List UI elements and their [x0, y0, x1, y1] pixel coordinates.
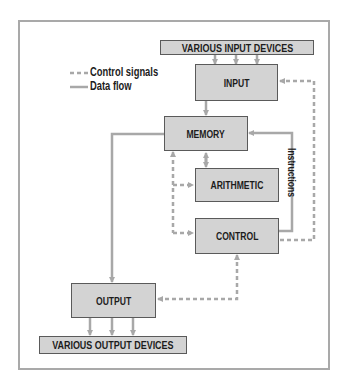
connector-lines: [0, 0, 351, 390]
input-label: INPUT: [224, 77, 250, 89]
control-label: CONTROL: [216, 230, 258, 242]
output-box: OUTPUT: [71, 283, 156, 318]
output-devices-label: VARIOUS OUTPUT DEVICES: [52, 339, 173, 351]
memory-box: MEMORY: [164, 116, 248, 151]
output-devices-box: VARIOUS OUTPUT DEVICES: [39, 336, 187, 354]
output-label: OUTPUT: [96, 295, 131, 307]
input-devices-box: VARIOUS INPUT DEVICES: [160, 40, 314, 55]
input-box: INPUT: [195, 64, 278, 101]
control-box: CONTROL: [195, 218, 279, 254]
instructions-label: Instructions: [286, 148, 298, 197]
legend-data-flow: Data flow: [90, 79, 132, 93]
arithmetic-label: ARITHMETIC: [211, 179, 264, 191]
arithmetic-box: ARITHMETIC: [195, 168, 279, 202]
legend-control-signals: Control signals: [90, 65, 158, 79]
memory-label: MEMORY: [187, 128, 225, 140]
input-devices-label: VARIOUS INPUT DEVICES: [181, 42, 292, 54]
